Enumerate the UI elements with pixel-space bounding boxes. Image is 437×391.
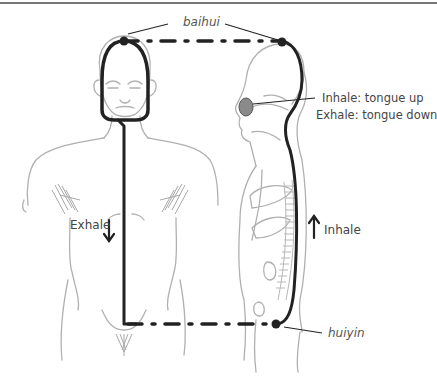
figure-illustration — [0, 0, 437, 391]
tongue-inhale-label: Inhale: tongue up — [322, 93, 424, 105]
inhale-flow-label: Inhale — [324, 224, 361, 236]
front-body-sketch — [23, 36, 218, 360]
tongue-exhale-label: Exhale: tongue down — [316, 110, 437, 122]
baihui-leader-right — [225, 24, 278, 40]
huiyin-point — [272, 320, 281, 329]
baihui-point-front — [120, 37, 129, 46]
up-arrow-icon — [309, 216, 319, 238]
baihui-label: baihui — [183, 16, 220, 28]
diagram-canvas: baihui Inhale: tongue up Exhale: tongue … — [0, 0, 437, 391]
exhale-flow-label: Exhale — [70, 219, 110, 231]
baihui-leader-left — [128, 24, 168, 34]
orbit-path — [102, 41, 302, 324]
tongue-marker — [239, 98, 253, 116]
spine-sketch — [276, 180, 295, 300]
baihui-point-side — [278, 38, 287, 47]
huiyin-leader — [284, 327, 322, 333]
huiyin-label: huiyin — [328, 327, 365, 339]
